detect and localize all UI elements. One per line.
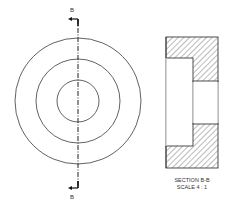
- section-scale: SCALE 4 : 1: [177, 184, 207, 190]
- technical-drawing: B B SECTION B-B SCALE 4 : 1: [0, 0, 231, 206]
- section-view: SECTION B-B SCALE 4 : 1: [166, 37, 218, 190]
- section-title: SECTION B-B: [174, 177, 209, 183]
- section-label-top: B: [70, 7, 74, 13]
- section-label-bottom: B: [70, 194, 74, 200]
- front-view: B B: [15, 7, 141, 200]
- bore-cavity: [193, 81, 218, 124]
- section-arrow-top: [68, 17, 78, 26]
- counterbore-cavity: [166, 58, 193, 146]
- section-arrow-bottom: [68, 181, 78, 190]
